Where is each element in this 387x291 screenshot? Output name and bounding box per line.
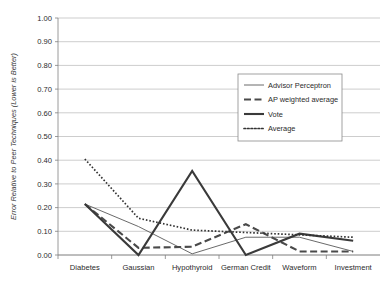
legend-label-2: Vote (268, 110, 283, 119)
y-axis-title: Error Relative to Peer Techniques (Lower… (9, 53, 18, 220)
y-tick-label: 0.30 (37, 180, 52, 189)
y-tick-label: 1.00 (37, 14, 52, 23)
y-tick-label: 0.00 (37, 251, 52, 260)
chart-container: 0.000.100.200.300.400.500.600.700.800.90… (0, 0, 387, 291)
x-category-label: Gaussian (122, 263, 154, 272)
y-tick-label: 0.20 (37, 203, 52, 212)
y-axis-title-text: Error Relative to Peer Techniques (Lower… (9, 53, 18, 220)
series-line-3 (85, 159, 353, 237)
y-tick-label: 0.50 (37, 132, 52, 141)
legend-label-1: AP weighted average (268, 95, 338, 104)
line-chart: 0.000.100.200.300.400.500.600.700.800.90… (0, 0, 387, 291)
x-category-label: German Credit (221, 263, 272, 272)
y-tick-label: 0.80 (37, 61, 52, 70)
legend-label-0: Advisor Perceptron (268, 81, 331, 90)
y-tick-label: 0.10 (37, 227, 52, 236)
legend-label-3: Average (268, 124, 295, 133)
x-category-label: Diabetes (70, 263, 100, 272)
y-tick-label: 0.40 (37, 156, 52, 165)
y-tick-label: 0.60 (37, 109, 52, 118)
y-tick-label: 0.70 (37, 85, 52, 94)
x-category-label: Investment (335, 263, 373, 272)
series-line-2 (85, 171, 353, 255)
x-category-label: Waveform (282, 263, 316, 272)
x-category-label: Hypothyroid (172, 263, 213, 272)
y-tick-label: 0.90 (37, 37, 52, 46)
